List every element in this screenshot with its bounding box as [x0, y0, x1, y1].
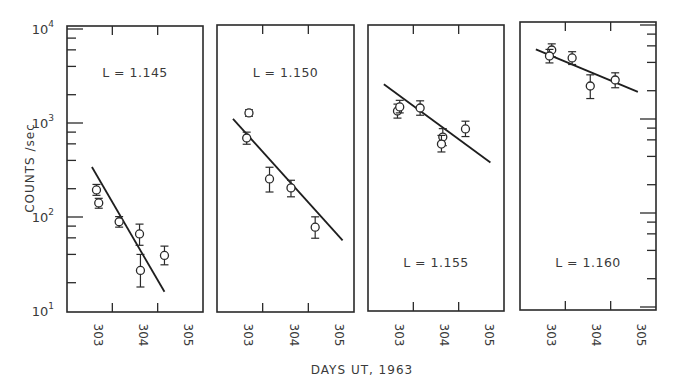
marker-circle: [136, 266, 144, 274]
y-axis-title: COUNTS /sec: [23, 123, 37, 213]
chart-panels: L = 1.145303304305L = 1.150303304305L = …: [67, 22, 656, 346]
marker-circle: [287, 184, 295, 192]
data-point: [461, 121, 469, 136]
panel-l-label: L = 1.155: [403, 255, 469, 270]
panel-l-label: L = 1.145: [102, 65, 168, 80]
data-point: [136, 254, 144, 287]
data-point: [136, 224, 144, 245]
x-tick-label: 304: [589, 324, 603, 347]
marker-circle: [396, 103, 404, 111]
x-axis-title: DAYS UT, 1963: [311, 363, 413, 377]
panel-l-label: L = 1.160: [555, 255, 621, 270]
marker-circle: [115, 218, 123, 226]
x-tick-label: 305: [634, 324, 648, 347]
fit-line: [384, 84, 491, 162]
x-tick-label: 304: [287, 324, 301, 347]
data-point: [287, 180, 295, 197]
marker-circle: [437, 140, 445, 148]
y-tick-label: 102: [32, 207, 54, 225]
marker-circle: [416, 104, 424, 112]
x-tick-label: 303: [91, 324, 105, 347]
panel-1: L = 1.145303304305: [67, 26, 203, 346]
marker-circle: [545, 52, 553, 60]
x-tick-label: 305: [482, 324, 496, 347]
marker-circle: [568, 54, 576, 62]
x-tick-label: 303: [241, 324, 255, 347]
x-tick-label: 303: [544, 324, 558, 347]
x-tick-label: 305: [181, 324, 195, 347]
marker-circle: [160, 251, 168, 259]
marker-circle: [92, 186, 100, 194]
marker-circle: [461, 125, 469, 133]
data-point: [266, 167, 274, 192]
x-tick-label: 303: [392, 324, 406, 347]
y-tick-label: 103: [32, 113, 54, 131]
marker-circle: [611, 76, 619, 84]
marker-circle: [311, 223, 319, 231]
panel-3: L = 1.155303304305: [368, 25, 504, 346]
data-point: [95, 198, 103, 208]
y-tick-label: 101: [32, 301, 54, 319]
y-axis-label: COUNTS /sec: [23, 123, 37, 213]
x-tick-label: 305: [332, 324, 346, 347]
panel-4: L = 1.160303304305: [520, 22, 656, 346]
marker-circle: [586, 82, 594, 90]
y-tick-label: 104: [32, 19, 55, 37]
data-point: [611, 73, 619, 88]
marker-circle: [266, 175, 274, 183]
x-axis-label: DAYS UT, 1963: [311, 363, 413, 377]
marker-circle: [95, 199, 103, 207]
data-point: [115, 217, 123, 228]
data-point: [92, 184, 100, 195]
data-point: [243, 132, 251, 144]
marker-circle: [243, 134, 251, 142]
data-point: [586, 75, 594, 99]
marker-circle: [136, 230, 144, 238]
chart-figure: COUNTS /sec 104103102101 L = 1.145303304…: [0, 0, 675, 392]
x-tick-label: 304: [437, 324, 451, 347]
fit-line: [92, 167, 165, 292]
data-point: [245, 109, 253, 117]
x-tick-label: 304: [136, 324, 150, 347]
panel-2: L = 1.150303304305: [217, 25, 354, 346]
panel-l-label: L = 1.150: [253, 65, 319, 80]
data-point: [311, 217, 319, 238]
marker-circle: [245, 109, 253, 117]
data-point: [160, 246, 168, 265]
